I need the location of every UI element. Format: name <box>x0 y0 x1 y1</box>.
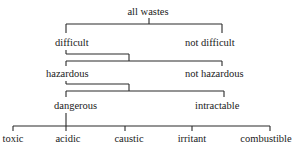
node-all-wastes: all wastes <box>127 6 168 17</box>
connector-all-wastes <box>66 18 222 33</box>
node-combustible: combustible <box>240 133 292 144</box>
node-not-hazardous: not hazardous <box>185 68 244 79</box>
node-intractable: intractable <box>195 100 240 111</box>
node-caustic: caustic <box>114 133 143 144</box>
node-difficult: difficult <box>55 37 89 48</box>
node-irritant: irritant <box>178 133 207 144</box>
node-hazardous: hazardous <box>46 68 89 79</box>
connector-hazardous <box>66 81 224 97</box>
node-dangerous: dangerous <box>54 100 97 111</box>
connector-difficult <box>66 50 222 66</box>
node-toxic: toxic <box>3 133 24 144</box>
connector-dangerous <box>13 113 270 131</box>
node-acidic: acidic <box>55 133 80 144</box>
waste-classification-tree: all wastes difficult not difficult hazar… <box>0 0 297 146</box>
node-not-difficult: not difficult <box>185 37 235 48</box>
